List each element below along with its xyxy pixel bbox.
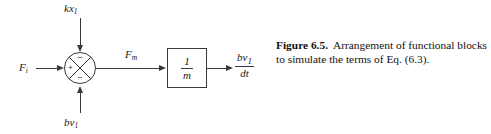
input-label-kx1-subscript: 1 <box>74 7 78 16</box>
output-fraction: bv1 dt <box>235 51 254 80</box>
output-arrowhead <box>226 65 233 71</box>
gain-block-fraction: 1 m <box>181 55 193 81</box>
gain-block-denominator: m <box>181 68 193 81</box>
output-numerator: bv1 <box>235 51 254 66</box>
summing-sign-left: + <box>66 64 76 72</box>
input-label-bv1-subscript: 1 <box>74 121 78 130</box>
input-label-Fi: Fi <box>19 61 28 77</box>
summing-sign-bottom: − <box>75 74 85 82</box>
output-numerator-subscript: 1 <box>247 56 252 66</box>
output-denominator: dt <box>235 66 254 79</box>
gain-block-numerator: 1 <box>181 55 193 67</box>
input-arrowhead-bv1 <box>77 86 83 93</box>
input-label-bv1: bv1 <box>64 116 78 132</box>
signal-line-Fm <box>96 68 161 69</box>
signal-arrowhead-Fm <box>159 65 166 71</box>
input-label-kx1: kx1 <box>64 2 78 18</box>
figure-caption: Figure 6.5.Arrangement of functional blo… <box>276 38 488 67</box>
figure-caption-label: Figure 6.5. <box>276 39 328 51</box>
signal-label-Fm-subscript: m <box>132 53 137 62</box>
signal-label-Fm: Fm <box>125 48 137 64</box>
summing-sign-top: − <box>75 54 85 62</box>
gain-block-one-over-m: 1 m <box>167 48 207 88</box>
input-arrowhead-Fi <box>57 65 64 71</box>
input-label-Fi-subscript: i <box>26 66 28 75</box>
summing-junction: − + − <box>64 52 96 84</box>
figure-panel: kx1 Fi bv1 − + − Fm <box>0 0 491 134</box>
input-arrowhead-kx1 <box>77 45 83 52</box>
output-label-dv1-dt: bv1 dt <box>235 51 254 80</box>
